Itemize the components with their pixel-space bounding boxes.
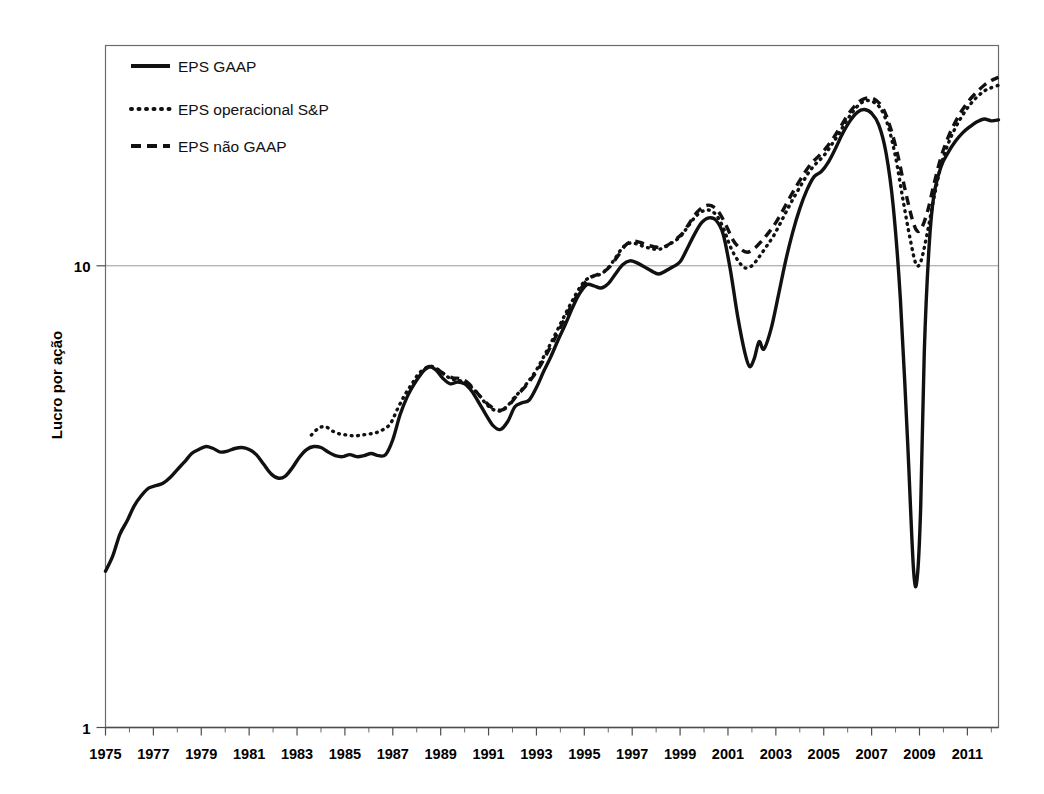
x-tick-label: 1981 [233,746,265,762]
x-tick-label: 2005 [808,746,840,762]
chart-container: 1975197719791981198319851987198919911993… [0,0,1044,794]
x-tick-label: 1991 [472,746,504,762]
x-tick-label: 1977 [137,746,169,762]
x-tick-label: 2003 [760,746,792,762]
x-tick-label: 1989 [425,746,457,762]
x-tick-label: 2011 [952,746,983,762]
x-tick-label: 1985 [329,746,361,762]
y-tick-label-10: 10 [74,258,91,275]
x-tick-label: 1999 [664,746,696,762]
x-tick-label: 2009 [903,746,935,762]
eps-log-line-chart: 1975197719791981198319851987198919911993… [0,0,1044,794]
x-tick-label: 1987 [377,746,409,762]
x-tick-label: 1975 [89,746,121,762]
y-tick-label-1: 1 [82,720,90,737]
y-axis-title: Lucro por ação [48,331,65,439]
x-tick-label: 1983 [281,746,313,762]
x-tick-label: 1993 [520,746,552,762]
x-tick-label: 2001 [712,746,744,762]
x-tick-label: 1997 [616,746,648,762]
x-tick-label: 2007 [855,746,887,762]
legend-label: EPS GAAP [178,58,256,75]
x-tick-label: 1995 [568,746,600,762]
chart-background [0,0,1044,794]
legend-label: EPS não GAAP [178,138,287,155]
x-tick-label: 1979 [185,746,217,762]
legend-label: EPS operacional S&P [178,101,329,118]
